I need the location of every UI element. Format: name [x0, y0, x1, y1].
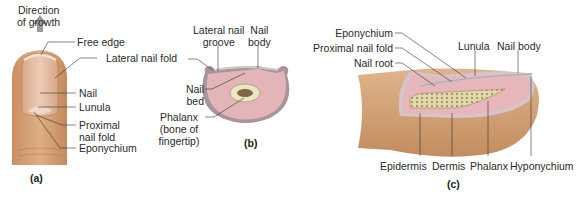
label-phalanx-line3: fingertip) — [154, 135, 204, 147]
label-nail-bed-line2: bed — [178, 95, 204, 107]
label-epidermis: Epidermis — [380, 160, 427, 172]
label-proximal-nail-fold: Proximal nail fold — [79, 119, 120, 143]
label-dermis: Dermis — [432, 160, 465, 172]
label-proximal-nail-fold-c: Proximal nail fold — [300, 42, 393, 54]
label-nail-body-b: Nail body — [248, 24, 271, 48]
label-nail-body-c: Nail body — [497, 40, 541, 52]
label-nail-body-line1: Nail — [248, 24, 271, 36]
label-hyponychium: Hyponychium — [510, 160, 574, 172]
label-phalanx-line2: (bone of — [154, 123, 204, 135]
label-free-edge: Free edge — [77, 36, 125, 48]
label-lateral-groove-line1: Lateral nail — [193, 24, 244, 36]
label-direction-line1: Direction — [17, 4, 60, 16]
label-nail: Nail — [79, 87, 97, 99]
caption-b: (b) — [244, 137, 257, 149]
label-proximal-line1: Proximal — [79, 119, 120, 131]
label-direction-of-growth: Direction of growth — [17, 4, 60, 28]
label-eponychium-c: Eponychium — [330, 27, 393, 39]
label-lateral-nail-groove: Lateral nail groove — [193, 24, 244, 48]
label-direction-line2: of growth — [17, 16, 60, 28]
label-lateral-nail-fold: Lateral nail fold — [106, 52, 177, 64]
caption-a: (a) — [30, 172, 43, 184]
label-lunula: Lunula — [79, 101, 111, 113]
label-phalanx-line1: Phalanx — [154, 111, 204, 123]
label-phalanx-c: Phalanx — [470, 160, 508, 172]
label-phalanx-b: Phalanx (bone of fingertip) — [154, 111, 204, 147]
label-eponychium-a: Eponychium — [79, 142, 137, 154]
label-nail-bed-line1: Nail — [178, 83, 204, 95]
label-lunula-c: Lunula — [458, 40, 490, 52]
label-nail-root: Nail root — [340, 57, 393, 69]
caption-c: (c) — [447, 178, 460, 190]
label-lateral-groove-line2: groove — [193, 36, 244, 48]
label-nail-bed: Nail bed — [178, 83, 204, 107]
label-nail-body-line2: body — [248, 36, 271, 48]
